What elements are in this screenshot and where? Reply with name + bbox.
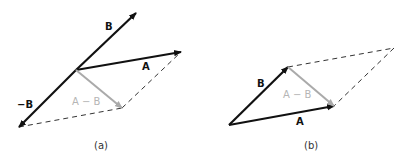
label-neg-b: −B bbox=[17, 99, 33, 110]
label-a-minus-b: A − B bbox=[283, 89, 312, 100]
panel-a: B A −B A − B (a) bbox=[17, 13, 181, 151]
label-a-minus-b: A − B bbox=[72, 96, 101, 107]
caption-b: (b) bbox=[304, 140, 318, 151]
dashed-line-B-to-sum bbox=[288, 48, 394, 67]
label-a: A bbox=[142, 61, 150, 72]
label-b: B bbox=[105, 21, 113, 32]
caption-a: (a) bbox=[94, 140, 108, 151]
label-a: A bbox=[296, 116, 304, 127]
vector-diagram: B A −B A − B (a) B A A − B (b) bbox=[0, 0, 409, 163]
vector-a-minus-b-arrow bbox=[288, 67, 334, 106]
panel-b: B A A − B (b) bbox=[229, 48, 394, 151]
label-b: B bbox=[257, 78, 265, 89]
